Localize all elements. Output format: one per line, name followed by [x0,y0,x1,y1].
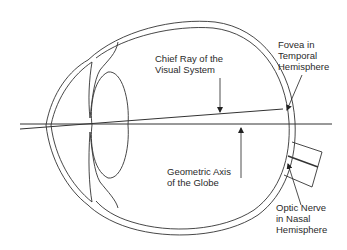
geometric-axis-label-line1: Geometric Axis [167,166,231,177]
fovea-label-line1: Fovea in [278,39,329,50]
fovea-label: Fovea in Temporal Hemisphere [278,39,329,72]
chief-ray-label: Chief Ray of the Visual System [155,53,223,75]
fovea-label-line3: Hemisphere [278,61,329,72]
cornea-inner-outline [51,62,92,202]
optic-nerve-outline [284,142,322,187]
fovea-pointer-arrow [287,75,302,110]
optic-nerve-center-line [288,156,318,167]
iris-upper [89,42,118,118]
optic-nerve-label: Optic Nerve in Nasal Hemisphere [276,202,327,235]
optic-nerve-label-line1: Optic Nerve [276,202,327,213]
chief-ray-label-line1: Chief Ray of the [155,53,223,64]
optic-nerve-label-line2: in Nasal [276,213,327,224]
fovea-label-line2: Temporal [278,50,329,61]
optic-nerve-label-line3: Hemisphere [276,224,327,235]
chief-ray-line [20,109,283,129]
iris-lower [89,132,118,208]
chief-ray-label-line2: Visual System [155,64,223,75]
optic-nerve-pointer-arrow [288,164,301,205]
geometric-axis-label-line2: of the Globe [167,177,231,188]
geometric-axis-label: Geometric Axis of the Globe [167,166,231,188]
lens-outline [91,72,128,178]
